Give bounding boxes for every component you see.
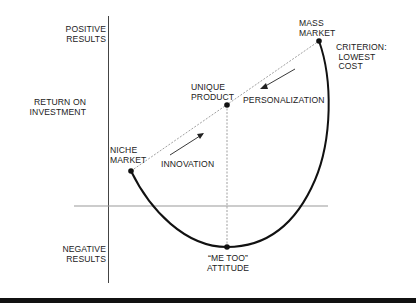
me-too-dot: [224, 244, 230, 250]
criterion-label: CRITERION: LOWEST COST: [336, 43, 387, 72]
niche-market-dot: [128, 168, 134, 174]
me-too-attitude-label: “ME TOO” ATTITUDE: [200, 254, 256, 273]
bottom-border-bar: [0, 298, 416, 303]
innovation-label: INNOVATION: [161, 160, 214, 170]
niche-market-label: NICHE MARKET: [110, 146, 146, 165]
negative-results-label: NEGATIVE RESULTS: [50, 245, 106, 264]
positive-results-label: POSITIVE RESULTS: [50, 25, 106, 44]
unique-product-dot: [224, 102, 230, 108]
mass-market-label: MASS MARKET: [299, 19, 335, 38]
roi-curve: [131, 41, 329, 247]
return-on-investment-label: RETURN ON INVESTMENT: [20, 98, 86, 117]
personalization-arrow-icon: [260, 69, 295, 89]
personalization-label: PERSONALIZATION: [243, 96, 325, 106]
unique-product-label: UNIQUE PRODUCT: [191, 83, 234, 102]
mass-market-dot: [316, 38, 322, 44]
innovation-arrow-icon: [170, 133, 204, 155]
roi-diagram: POSITIVE RESULTS RETURN ON INVESTMENT NE…: [0, 0, 416, 303]
